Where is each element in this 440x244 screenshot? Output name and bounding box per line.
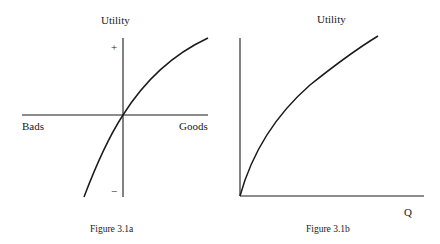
fig-a-plus-mark: + [111,41,117,53]
fig-b-caption: Figure 3.1b [306,224,350,234]
fig-a-utility-curve [84,38,208,197]
fig-a-minus-mark: − [111,185,117,197]
fig-b-x-label: Q [404,206,412,218]
fig-b-y-label: Utility [317,13,346,25]
fig-a-bads-label: Bads [22,120,44,132]
figures-canvas [0,0,440,244]
fig-a-goods-label: Goods [179,120,208,132]
fig-b-utility-curve [240,36,378,196]
fig-a-y-label: Utility [101,14,130,26]
fig-a-caption: Figure 3.1a [90,224,133,234]
